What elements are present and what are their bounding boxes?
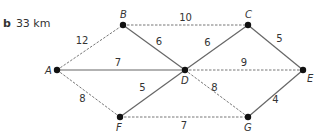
edge-weight-d-e: 9 xyxy=(241,57,247,68)
node-label-d: D xyxy=(181,75,189,86)
edge-weight-b-d: 6 xyxy=(156,36,162,47)
edge-weight-g-e: 4 xyxy=(272,94,278,105)
node-g xyxy=(245,114,251,120)
edge-weight-a-f: 8 xyxy=(79,93,85,104)
edge-c-d xyxy=(185,25,248,70)
edge-weight-c-d: 6 xyxy=(204,37,210,48)
node-c xyxy=(245,22,251,28)
edge-weight-a-b: 12 xyxy=(76,35,89,46)
edge-weight-d-g: 8 xyxy=(211,82,217,93)
node-label-g: G xyxy=(244,122,252,133)
edge-weight-f-g: 7 xyxy=(181,120,187,131)
edge-a-b xyxy=(57,25,123,70)
edge-d-f xyxy=(120,70,185,117)
node-f xyxy=(117,114,123,120)
node-label-c: C xyxy=(245,9,252,20)
edge-weight-c-e: 5 xyxy=(276,33,282,44)
node-label-b: B xyxy=(120,9,127,20)
node-label-e: E xyxy=(307,73,314,84)
edge-b-d xyxy=(123,25,185,70)
edge-d-g xyxy=(185,70,248,117)
node-b xyxy=(120,22,126,28)
node-a xyxy=(54,67,60,73)
edge-a-f xyxy=(57,70,120,117)
edge-weight-d-f: 5 xyxy=(139,82,145,93)
edge-weight-a-d: 7 xyxy=(115,57,121,68)
network-graph: 12781066595874 ABCDEFG xyxy=(0,0,317,139)
node-d xyxy=(182,67,188,73)
node-e xyxy=(300,67,306,73)
node-label-f: F xyxy=(116,122,122,133)
edge-weight-b-c: 10 xyxy=(179,12,192,23)
node-label-a: A xyxy=(44,65,52,76)
